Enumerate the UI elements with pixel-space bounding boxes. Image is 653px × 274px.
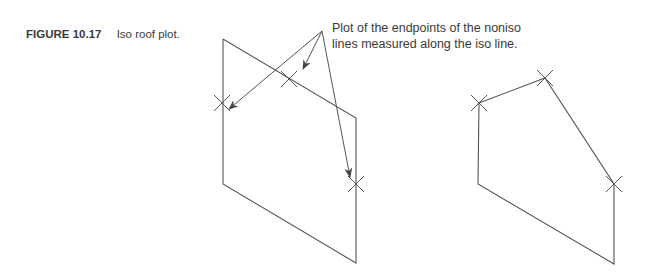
- roof-outline: [478, 78, 614, 264]
- left-iso-wall: [223, 39, 356, 263]
- wall-outline: [223, 39, 356, 263]
- x-mark-icon: [537, 70, 553, 86]
- arrow-icon: [229, 31, 322, 109]
- arrow-icon: [322, 31, 350, 177]
- arrow-icon: [303, 31, 322, 69]
- x-mark-icon: [214, 95, 230, 111]
- x-mark-icon: [281, 71, 297, 87]
- roof-diagram: [0, 0, 653, 274]
- right-roof-plot: [471, 70, 622, 264]
